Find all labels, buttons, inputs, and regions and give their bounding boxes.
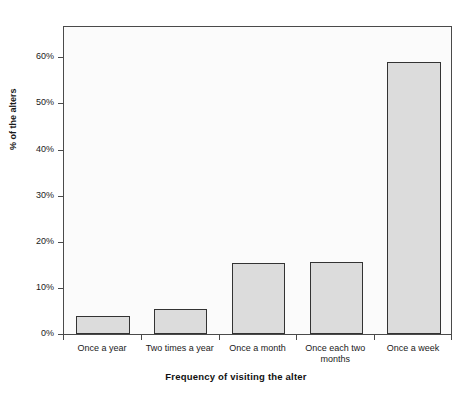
x-axis-title: Frequency of visiting the alter bbox=[0, 371, 472, 382]
y-tick-label: 50% bbox=[36, 97, 54, 108]
plot-area bbox=[63, 26, 452, 335]
y-axis: 0%10%20%30%40%50%60% bbox=[0, 0, 63, 394]
y-tick-label: 40% bbox=[36, 144, 54, 155]
x-tick-label: Once a month bbox=[219, 343, 297, 354]
y-tick-label: 60% bbox=[36, 51, 54, 62]
x-tick-mark bbox=[219, 335, 220, 340]
x-tick-label: Two times a year bbox=[141, 343, 219, 354]
x-tick-mark bbox=[141, 335, 142, 340]
y-tick-label: 20% bbox=[36, 236, 54, 247]
x-tick-mark bbox=[374, 335, 375, 340]
x-tick-mark bbox=[451, 335, 452, 340]
bars-layer bbox=[64, 27, 451, 334]
bar bbox=[154, 309, 207, 334]
x-tick-label: Once a week bbox=[374, 343, 452, 354]
bar bbox=[76, 316, 129, 334]
x-tick-mark bbox=[296, 335, 297, 340]
y-tick-label: 30% bbox=[36, 190, 54, 201]
y-tick-label: 10% bbox=[36, 282, 54, 293]
y-tick-label: 0% bbox=[41, 328, 54, 339]
x-axis: Once a yearTwo times a yearOnce a monthO… bbox=[63, 335, 452, 394]
x-tick-label: Once each two months bbox=[296, 343, 374, 365]
bar bbox=[232, 263, 285, 334]
bar bbox=[310, 262, 363, 334]
bar bbox=[387, 62, 440, 334]
x-tick-mark bbox=[63, 335, 64, 340]
bar-chart: % of the alters 0%10%20%30%40%50%60% Onc… bbox=[0, 0, 472, 394]
x-tick-label: Once a year bbox=[63, 343, 141, 354]
